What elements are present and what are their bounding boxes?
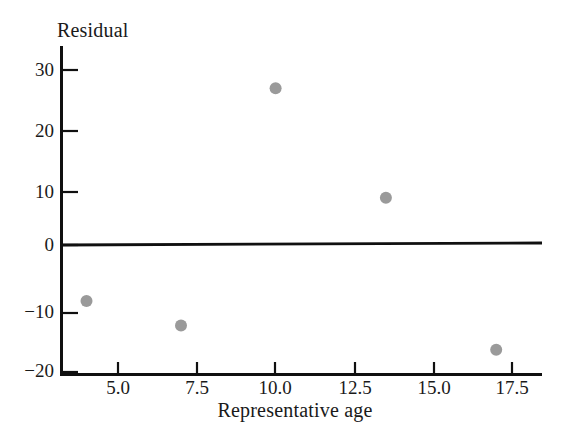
zero-residual-reference-line <box>61 243 542 245</box>
data-point[interactable] <box>270 82 282 94</box>
x-axis-title-text: Representative age <box>217 399 372 421</box>
y-tick-label-0: 0 <box>0 235 54 255</box>
data-point[interactable] <box>490 344 502 356</box>
data-point[interactable] <box>81 295 93 307</box>
data-point[interactable] <box>380 192 392 204</box>
x-tick-label-10.0: 10.0 <box>240 378 310 398</box>
data-point-layer <box>81 82 503 356</box>
y-tick-label-30: 30 <box>0 60 54 80</box>
x-tick-label-15.0: 15.0 <box>399 378 469 398</box>
plot-canvas <box>0 0 566 440</box>
x-tick-label-17.5: 17.5 <box>477 378 547 398</box>
y-tick-label--20: −20 <box>0 361 54 381</box>
data-point[interactable] <box>175 319 187 331</box>
residual-plot-figure: Residual 30 <box>0 0 566 440</box>
y-tick-label-20: 20 <box>0 121 54 141</box>
y-tick-label--10: −10 <box>0 302 54 322</box>
x-axis-title: Representative age <box>0 398 566 422</box>
axis-layer <box>60 46 542 376</box>
x-tick-label-5.0: 5.0 <box>83 378 153 398</box>
y-tick-marks <box>62 70 78 372</box>
x-tick-label-12.5: 12.5 <box>320 378 390 398</box>
x-tick-label-7.5: 7.5 <box>162 378 232 398</box>
y-tick-label-10: 10 <box>0 182 54 202</box>
